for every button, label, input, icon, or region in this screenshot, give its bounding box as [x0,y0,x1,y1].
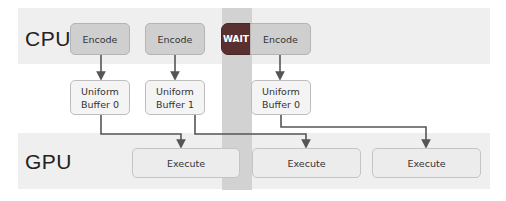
execute-label: Execute [408,157,446,170]
buffer-line1: Uniform [156,86,194,97]
uniform-buffer-0: UniformBuffer 0 [70,80,130,115]
buffer-line2: Buffer 0 [81,99,119,110]
arrow-buffer1-to-execute2 [195,115,306,144]
encode-block-2: Encode [145,23,205,55]
buffer-line1: Uniform [262,86,300,97]
encode-label: Encode [263,33,298,46]
arrow-buffer0-to-execute1 [101,115,181,144]
execute-block-1: Execute [132,148,240,178]
buffer-line2: Buffer 0 [262,99,300,110]
encode-block-3: Encode [250,23,311,55]
wait-label: WAIT [223,33,249,46]
wait-block: WAIT [221,23,251,55]
uniform-buffer-0-reuse: UniformBuffer 0 [251,80,311,115]
arrow-buffer0b-to-execute3 [281,115,426,144]
execute-label: Execute [288,157,326,170]
uniform-buffer-1: UniformBuffer 1 [145,80,205,115]
execute-label: Execute [167,157,205,170]
buffer-line1: Uniform [81,86,119,97]
execute-block-2: Execute [252,148,361,178]
encode-label: Encode [158,33,193,46]
execute-block-3: Execute [372,148,481,178]
encode-block-1: Encode [70,23,130,55]
encode-label: Encode [83,33,118,46]
buffer-line2: Buffer 1 [156,99,194,110]
